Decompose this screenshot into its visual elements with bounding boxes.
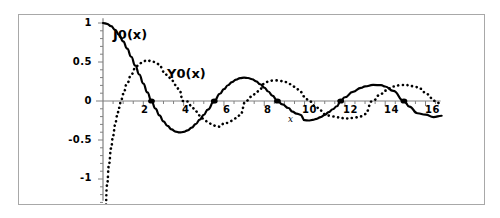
x-tick-label-14: 14 xyxy=(384,104,399,115)
bessel-function-plot: 1 0.5 0 -0.5 -1 2 4 6 8 10 12 14 16 x J0… xyxy=(0,0,500,218)
x-tick-label-8: 8 xyxy=(264,104,271,115)
x-tick-label-12: 12 xyxy=(343,104,358,115)
zero-crossing-marker xyxy=(211,98,218,103)
x-axis-name: x xyxy=(288,114,293,124)
curve-label-y0: Y0(x) xyxy=(167,66,206,81)
series-j0x xyxy=(103,23,442,132)
zero-crossing-marker xyxy=(401,98,408,103)
x-tick-label-4: 4 xyxy=(182,104,189,115)
curve-label-j0: J0(x) xyxy=(113,27,147,42)
zero-crossing-marker xyxy=(337,98,344,103)
zero-crossing-marker xyxy=(274,98,281,103)
x-tick-label-16: 16 xyxy=(425,104,440,115)
x-tick-label-2: 2 xyxy=(141,104,148,115)
series-y0x xyxy=(105,60,441,214)
x-tick-label-10: 10 xyxy=(302,104,317,115)
zero-crossing-marker xyxy=(148,98,155,103)
y-tick-label-0_5: 0.5 xyxy=(55,56,92,67)
y-tick-label-0: 0 xyxy=(62,95,92,106)
y-tick-label-1: 1 xyxy=(62,17,92,28)
x-tick-label-6: 6 xyxy=(223,104,230,115)
y-tick-label-neg1: -1 xyxy=(57,172,92,183)
y-tick-label-neg0_5: -0.5 xyxy=(50,134,92,145)
